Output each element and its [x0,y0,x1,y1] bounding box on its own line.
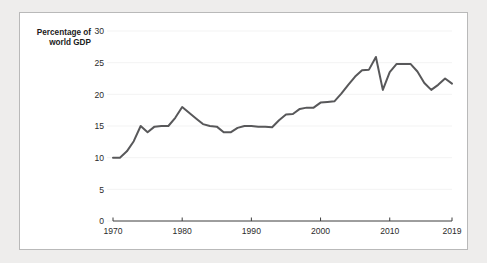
x-axis-tick-marks [113,218,452,222]
x-axis-tick-labels: 197019801990200020102019 [103,226,461,236]
y-tick-label: 20 [94,90,104,100]
x-tick-label: 2010 [380,226,399,236]
gdp-line-chart: 051015202530 197019801990200020102019 Pe… [20,13,467,249]
y-tick-label: 25 [94,58,104,68]
y-axis-label-line2: world GDP [48,38,91,47]
x-tick-label: 2019 [442,226,461,236]
page-root: 051015202530 197019801990200020102019 Pe… [0,0,487,263]
x-tick-label: 1990 [242,226,261,236]
y-tick-label: 0 [99,216,104,226]
y-tick-label: 5 [99,185,104,195]
y-tick-label: 15 [94,121,104,131]
x-tick-label: 1970 [103,226,122,236]
x-tick-label: 2000 [311,226,330,236]
gdp-data-line [113,57,452,158]
y-axis-tick-labels: 051015202530 [94,26,104,226]
y-axis-label-line1: Percentage of [37,28,91,37]
y-tick-label: 30 [94,26,104,36]
x-tick-label: 1980 [173,226,192,236]
chart-panel: 051015202530 197019801990200020102019 Pe… [19,12,468,250]
y-tick-label: 10 [94,153,104,163]
